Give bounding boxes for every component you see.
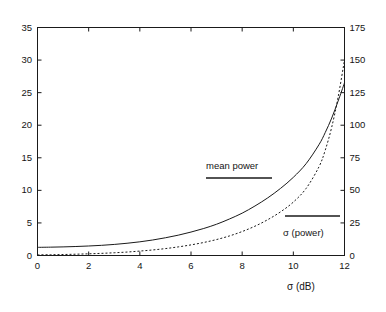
axis-tick-label: 2	[77, 261, 101, 271]
axis-tick-label: 10	[4, 185, 32, 195]
axis-tick-label: 50	[350, 185, 380, 195]
x-axis-title: σ (dB)	[287, 281, 315, 292]
figure-canvas: 05101520253035 0255075100125150175 02468…	[0, 0, 386, 312]
axis-tick-label: 10	[281, 261, 305, 271]
axis-tick-label: 0	[26, 261, 50, 271]
axis-tick-label: 15	[4, 153, 32, 163]
axis-tick-label: 8	[230, 261, 254, 271]
axis-tick-label: 6	[179, 261, 203, 271]
axis-tick-label: 20	[4, 120, 32, 130]
axis-tick-label: 75	[350, 153, 380, 163]
axis-tick-label: 100	[350, 120, 380, 130]
axis-tick-label: 30	[4, 55, 32, 65]
axis-tick-label: 125	[350, 88, 380, 98]
axis-tick-label: 0	[4, 251, 32, 261]
top-axis-ticks	[89, 28, 294, 32]
series-line-2	[38, 60, 345, 255]
data-series-group	[38, 60, 345, 255]
plot-frame	[38, 28, 345, 256]
left-axis-ticks	[38, 60, 42, 223]
axis-tick-label: 150	[350, 55, 380, 65]
axis-tick-label: 4	[128, 261, 152, 271]
axis-tick-label: 35	[4, 23, 32, 33]
annotation-label-mean-power: mean power	[206, 160, 258, 171]
axis-tick-label: 25	[350, 218, 380, 228]
axis-tick-label: 12	[333, 261, 357, 271]
axis-tick-label: 0	[350, 251, 380, 261]
axis-tick-label: 175	[350, 23, 380, 33]
annotation-label-sigma-power: σ (power)	[283, 227, 324, 238]
axis-tick-label: 5	[4, 218, 32, 228]
series-line-1	[38, 83, 345, 247]
axis-tick-label: 25	[4, 88, 32, 98]
annotation-legend-lines	[206, 178, 340, 216]
